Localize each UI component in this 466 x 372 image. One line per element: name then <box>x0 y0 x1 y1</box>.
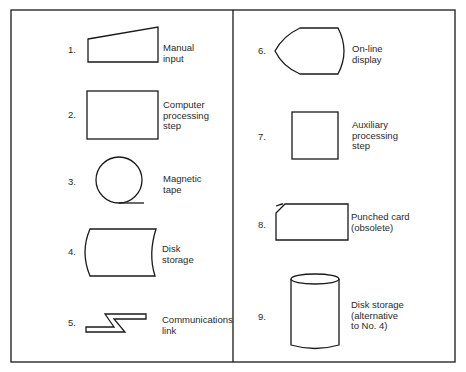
communications-link-shape <box>86 314 146 332</box>
magnetic-tape-shape <box>96 157 142 203</box>
disk-storage-shape <box>85 229 156 276</box>
symbol-number-1: 1. <box>68 44 76 55</box>
symbol-number-6: 6. <box>258 45 266 56</box>
symbol-label-8: Punched card (obsolete) <box>351 212 410 233</box>
punched-card-shape <box>276 204 283 206</box>
symbol-label-2: Computer processing step <box>163 100 209 132</box>
symbol-label-1: Manual input <box>163 43 194 64</box>
symbol-label-3: Magnetic tape <box>163 174 202 195</box>
cylinder-top <box>291 274 339 284</box>
symbol-number-9: 9. <box>258 311 266 322</box>
symbol-number-4: 4. <box>68 246 76 257</box>
symbol-number-3: 3. <box>68 176 76 187</box>
punched-card-shape-body <box>276 204 348 240</box>
symbol-label-4: Disk storage <box>162 244 194 265</box>
symbol-label-5: Communications link <box>162 315 233 336</box>
manual-input-shape <box>88 27 158 62</box>
symbol-label-6: On-line display <box>352 44 383 65</box>
symbol-number-2: 2. <box>68 109 76 120</box>
computer-processing-shape <box>87 91 158 139</box>
cylinder-body <box>291 279 339 349</box>
symbol-label-9: Disk storage (alternative to No. 4) <box>351 300 404 332</box>
symbol-number-7: 7. <box>258 131 266 142</box>
symbol-number-5: 5. <box>68 317 76 328</box>
auxiliary-processing-shape <box>292 112 338 159</box>
symbol-label-7: Auxiliary processing step <box>352 120 398 152</box>
online-display-shape <box>275 28 344 74</box>
symbol-number-8: 8. <box>258 219 266 230</box>
